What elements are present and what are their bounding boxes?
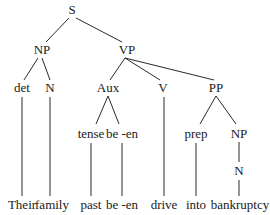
tree-edges xyxy=(0,0,270,215)
edge-vp-aux xyxy=(110,58,125,80)
edge-s-vp xyxy=(76,18,122,42)
edge-pp-np xyxy=(216,96,236,124)
edge-np-n xyxy=(42,58,50,80)
edge-vp-v xyxy=(125,58,160,80)
node-prep: prep xyxy=(184,127,207,141)
edge-aux-tense xyxy=(96,96,108,124)
node-np: NP xyxy=(34,43,51,57)
node-n-object: N xyxy=(234,164,243,178)
node-v: V xyxy=(158,81,167,95)
node-tense: tense xyxy=(78,127,105,141)
edge-aux-be-en xyxy=(108,96,119,124)
leaf-their: Their xyxy=(8,198,36,212)
edge-pp-prep xyxy=(200,96,216,124)
edge-vp-pp xyxy=(125,58,214,80)
leaf-bankruptcy: bankruptcy xyxy=(211,198,269,212)
edge-np-det xyxy=(24,58,38,80)
node-s: S xyxy=(68,3,75,17)
node-det: det xyxy=(14,81,30,95)
leaf-into: into xyxy=(186,198,206,212)
node-n: N xyxy=(45,81,54,95)
node-np-object: NP xyxy=(231,127,248,141)
leaf-past: past xyxy=(81,198,102,212)
leaf-drive: drive xyxy=(151,198,178,212)
edge-s-np xyxy=(46,18,69,42)
node-vp: VP xyxy=(119,43,136,57)
leaf-family: family xyxy=(35,198,69,212)
node-pp: PP xyxy=(209,81,223,95)
leaf-be-en: be -en xyxy=(106,198,138,212)
node-aux: Aux xyxy=(97,81,119,95)
node-be-en: be -en xyxy=(106,127,138,141)
